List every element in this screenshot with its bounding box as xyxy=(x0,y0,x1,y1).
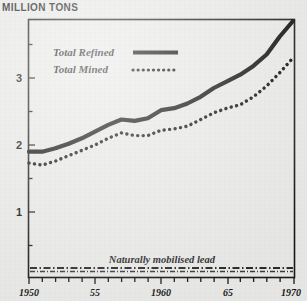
plot-frame xyxy=(29,20,295,278)
naturally-mobilised-lead-band xyxy=(30,268,293,272)
y-tick-label-1: 1 xyxy=(16,206,22,218)
chart-figure: MILLION TONS 3 2 1 xyxy=(0,0,307,301)
x-tick-label-1950: 1950 xyxy=(19,287,39,298)
x-axis-ticks xyxy=(29,278,294,285)
x-tick-label-55: 55 xyxy=(90,287,100,298)
series-total-refined xyxy=(29,21,293,152)
chart-svg: 3 2 1 1950 55 19 xyxy=(0,0,307,301)
y-tick-label-2: 2 xyxy=(16,139,22,151)
x-tick-label-1960: 1960 xyxy=(151,287,171,298)
legend-label-total-refined: Total Refined xyxy=(53,46,115,58)
x-tick-label-65: 65 xyxy=(223,287,233,298)
y-axis-ticks xyxy=(29,45,36,246)
x-tick-label-1970: 1970 xyxy=(281,287,301,298)
y-tick-label-3: 3 xyxy=(16,72,22,84)
legend-label-total-mined: Total Mined xyxy=(53,63,108,75)
naturally-mobilised-lead-label: Naturally mobilised lead xyxy=(108,254,216,265)
chart-legend: Total Refined Total Mined xyxy=(53,46,178,75)
